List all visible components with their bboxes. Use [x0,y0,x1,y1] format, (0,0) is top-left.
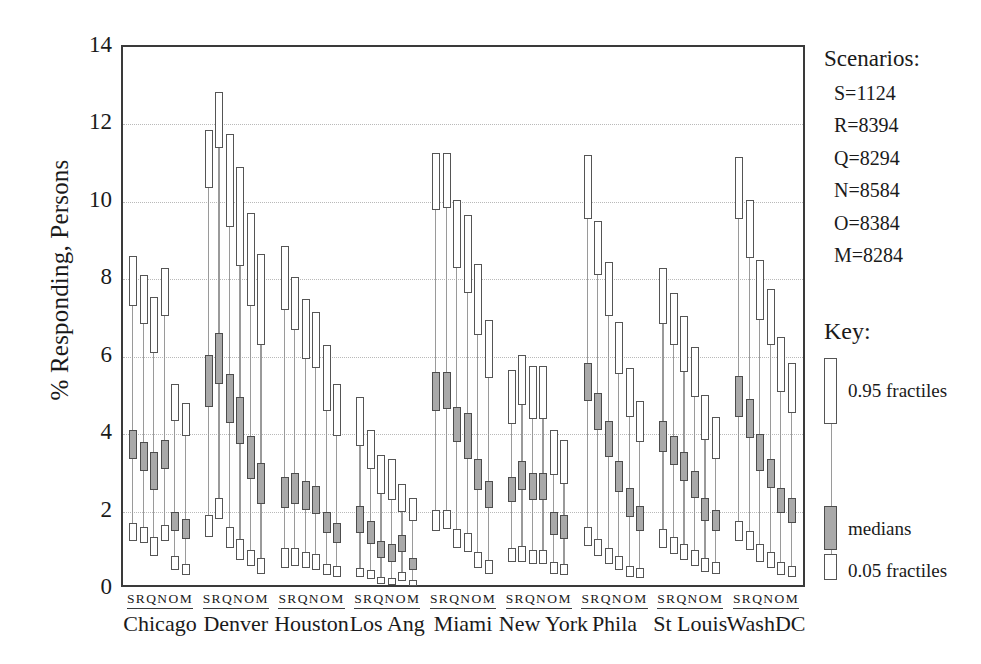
box-series-M [560,47,568,585]
box-p95 [550,430,558,475]
box-series-Q [150,47,158,585]
box-series-O [323,47,331,585]
box-median [356,506,364,533]
box-median [257,463,265,504]
box-p95 [333,384,341,436]
box-p95 [680,316,688,372]
box-p05 [615,556,623,570]
box-p05 [636,568,644,578]
box-median [605,421,613,458]
box-p95 [171,384,179,421]
legend-item: N=8584 [834,174,981,206]
box-p05 [529,550,537,564]
box-p05 [777,562,785,576]
scenarios-legend-title: Scenarios: [824,46,981,72]
box-p95 [236,167,244,266]
x-scenario-codes: SRQNOM [581,591,647,609]
legend-item: O=8384 [834,207,981,239]
box-series-N [615,47,623,585]
box-p95 [205,130,213,188]
box-median [659,421,667,452]
y-tick-label: 6 [72,343,112,366]
box-p95 [464,215,472,292]
box-median [432,372,440,411]
box-p05 [182,564,190,576]
box-p05 [712,562,720,574]
x-axis: SRQNOMChicagoSRQNOMDenverSRQNOMHoustonSR… [121,589,805,664]
x-scenario-codes: SRQNOM [354,591,420,609]
box-p05 [150,537,158,556]
box-series-Q [680,47,688,585]
box-series-Q [605,47,613,585]
box-group-houston [281,47,347,585]
x-city-label: Chicago [120,611,200,637]
box-p05 [236,539,244,560]
x-group-label-los-ang: SRQNOMLos Ang [347,589,427,637]
box-series-N [312,47,320,585]
legend-item: S=1124 [834,77,981,109]
box-p05 [584,527,592,546]
box-p05 [464,533,472,552]
box-median [247,436,255,479]
box-series-Q [756,47,764,585]
box-p95 [615,322,623,374]
box-median [182,519,190,538]
box-p95 [539,366,547,418]
box-series-R [746,47,754,585]
box-series-O [550,47,558,585]
box-median [409,558,417,570]
box-median [594,393,602,430]
box-median [560,515,568,538]
box-median [236,397,244,443]
box-median [302,481,310,510]
box-p05 [312,554,320,569]
box-p95 [594,221,602,275]
box-series-R [140,47,148,585]
box-series-Q [453,47,461,585]
box-median [550,512,558,535]
y-tick-label: 4 [72,420,112,443]
box-p05 [560,564,568,576]
key-legend-title: Key: [824,318,981,345]
legend-item: R=8394 [834,109,981,141]
box-series-S [356,47,364,585]
box-group-chicago [129,47,195,585]
box-p95 [788,363,796,413]
box-p95 [474,264,482,336]
box-stem [218,92,219,520]
x-scenario-codes: SRQNOM [127,591,193,609]
box-series-S [735,47,743,585]
x-scenario-codes: SRQNOM [203,591,269,609]
box-group-los-ang [356,47,422,585]
box-median [281,477,289,508]
x-scenario-codes: SRQNOM [657,591,723,609]
legend-item: M=8284 [834,239,981,271]
box-p05 [398,572,406,582]
box-p95 [150,297,158,353]
box-group-washdc [735,47,801,585]
x-group-label-denver: SRQNOMDenver [196,589,276,637]
box-p05 [333,566,341,578]
box-p95 [453,200,461,268]
y-tick-label: 8 [72,265,112,288]
box-p95 [409,498,417,521]
y-tick-label: 14 [72,33,112,56]
x-city-label: New York [499,611,579,637]
box-series-S [281,47,289,585]
box-series-R [670,47,678,585]
key-glyph [824,358,840,580]
box-p05 [257,558,265,573]
box-p05 [215,498,223,519]
box-series-M [182,47,190,585]
x-city-label: WashDC [726,611,806,637]
y-tick-label: 0 [72,575,112,598]
y-tick-label: 10 [72,188,112,211]
box-median [777,488,785,513]
box-p95 [605,262,613,316]
box-median [539,473,547,500]
box-series-S [584,47,592,585]
box-median [205,355,213,407]
plot-area [121,45,805,587]
box-p95 [626,368,634,416]
box-series-R [291,47,299,585]
